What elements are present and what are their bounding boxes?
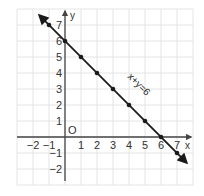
data-point <box>79 55 84 60</box>
data-point <box>95 71 100 76</box>
x-tick-label: 6 <box>158 139 164 151</box>
y-tick-label: 3 <box>56 83 62 95</box>
data-point <box>127 103 132 108</box>
data-point <box>111 87 116 92</box>
data-point <box>159 135 164 140</box>
x-tick-label: 1 <box>78 139 84 151</box>
y-tick-label: −1 <box>49 147 62 159</box>
coordinate-plane: xyO−2−112345677654321−1−2 x+y=6 <box>0 0 204 196</box>
x-tick-label: −2 <box>27 139 40 151</box>
y-tick-label: 5 <box>56 51 62 63</box>
y-tick-label: −2 <box>49 163 62 175</box>
grid-lines <box>17 9 193 185</box>
y-tick-label: 1 <box>56 115 62 127</box>
y-tick-label: 7 <box>56 19 62 31</box>
data-point <box>143 119 148 124</box>
origin-label: O <box>68 124 77 136</box>
y-axis-label: y <box>70 10 75 21</box>
data-point <box>175 151 180 156</box>
x-tick-label: 5 <box>142 139 148 151</box>
data-point <box>47 23 52 28</box>
tick-labels: xyO−2−112345677654321−1−2 <box>27 10 190 175</box>
y-tick-label: 2 <box>56 99 62 111</box>
axes <box>17 11 191 181</box>
x-axis-label: x <box>185 140 190 151</box>
x-tick-label: 2 <box>94 139 100 151</box>
x-tick-label: 4 <box>126 139 132 151</box>
x-tick-label: 7 <box>174 139 180 151</box>
y-tick-label: 4 <box>56 67 62 79</box>
equation-label: x+y=6 <box>126 71 153 98</box>
data-point <box>63 39 68 44</box>
x-tick-label: 3 <box>110 139 116 151</box>
